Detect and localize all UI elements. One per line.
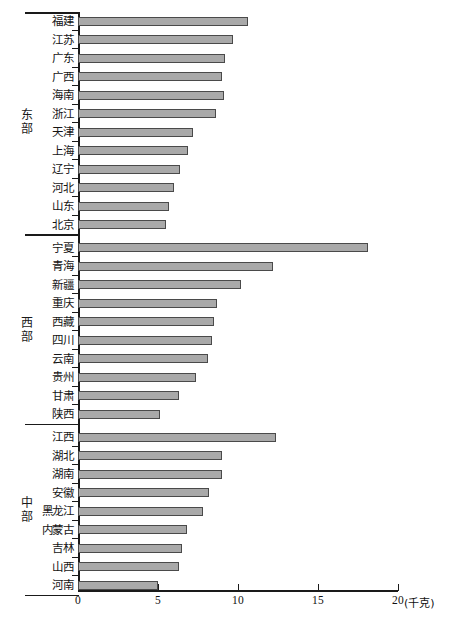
horizontal-bar-chart: 05101520 福建江苏广东广西海南浙江天津上海辽宁河北山东北京宁夏青海新疆重…	[0, 0, 464, 627]
bar-西藏	[78, 317, 214, 326]
bar-河南	[78, 581, 158, 590]
bar-row: 江苏	[0, 31, 464, 50]
bar-row: 广东	[0, 49, 464, 68]
category-label-福建: 福建	[4, 12, 74, 31]
category-label-河南: 河南	[4, 576, 74, 595]
bar-row: 河北	[0, 179, 464, 198]
bar-海南	[78, 91, 224, 100]
x-tick-label-20: 20	[392, 594, 404, 606]
bar-row: 福建	[0, 12, 464, 31]
bar-row: 陕西	[0, 405, 464, 424]
category-label-陕西: 陕西	[4, 405, 74, 424]
bar-row: 宁夏	[0, 239, 464, 258]
category-label-上海: 上海	[4, 142, 74, 161]
bar-row: 内蒙古	[0, 521, 464, 540]
bar-row: 山西	[0, 558, 464, 577]
bar-湖南	[78, 470, 222, 479]
bar-江西	[78, 433, 276, 442]
x-axis-unit-label: (千克)	[404, 594, 435, 610]
bar-row: 湖南	[0, 465, 464, 484]
category-label-江西: 江西	[4, 428, 74, 447]
category-label-湖南: 湖南	[4, 465, 74, 484]
bar-辽宁	[78, 165, 180, 174]
category-label-浙江: 浙江	[4, 105, 74, 124]
bar-北京	[78, 220, 166, 229]
bar-row: 广西	[0, 68, 464, 87]
group-label-东部: 东部	[18, 108, 36, 136]
bar-row: 新疆	[0, 276, 464, 295]
category-label-青海: 青海	[4, 257, 74, 276]
category-label-广西: 广西	[4, 68, 74, 87]
bar-广西	[78, 72, 222, 81]
bar-row: 海南	[0, 86, 464, 105]
bar-row: 安徽	[0, 484, 464, 503]
bar-row: 贵州	[0, 368, 464, 387]
group-separator-中部	[25, 595, 79, 597]
bar-row: 江西	[0, 428, 464, 447]
category-label-江苏: 江苏	[4, 31, 74, 50]
category-label-贵州: 贵州	[4, 368, 74, 387]
bar-陕西	[78, 410, 160, 419]
group-separator-top	[25, 12, 79, 14]
bar-青海	[78, 262, 273, 271]
bar-row: 四川	[0, 331, 464, 350]
bar-山西	[78, 562, 179, 571]
category-label-新疆: 新疆	[4, 276, 74, 295]
group-label-中部: 中部	[18, 496, 36, 524]
category-label-西藏: 西藏	[4, 313, 74, 332]
bar-row: 西藏	[0, 313, 464, 332]
bar-row: 上海	[0, 142, 464, 161]
category-label-内蒙古: 内蒙古	[4, 521, 74, 540]
category-label-广东: 广东	[4, 49, 74, 68]
category-label-湖北: 湖北	[4, 447, 74, 466]
bar-四川	[78, 336, 212, 345]
bar-贵州	[78, 373, 196, 382]
x-tick-label-5: 5	[155, 594, 161, 606]
group-label-西部: 西部	[18, 316, 36, 344]
category-label-云南: 云南	[4, 350, 74, 369]
bar-row: 黑龙江	[0, 502, 464, 521]
bar-山东	[78, 202, 169, 211]
group-separator-西部	[25, 424, 79, 426]
bar-row: 甘肃	[0, 387, 464, 406]
category-label-北京: 北京	[4, 216, 74, 235]
x-tick-label-15: 15	[312, 594, 324, 606]
bar-宁夏	[78, 243, 368, 252]
category-label-宁夏: 宁夏	[4, 239, 74, 258]
bar-row: 天津	[0, 123, 464, 142]
bar-row: 北京	[0, 216, 464, 235]
bar-row: 辽宁	[0, 160, 464, 179]
category-label-甘肃: 甘肃	[4, 387, 74, 406]
bar-内蒙古	[78, 525, 187, 534]
bar-安徽	[78, 488, 209, 497]
bar-天津	[78, 128, 193, 137]
group-separator-东部	[25, 234, 79, 236]
category-label-山东: 山东	[4, 197, 74, 216]
category-label-重庆: 重庆	[4, 294, 74, 313]
bar-江苏	[78, 35, 233, 44]
bar-浙江	[78, 109, 216, 118]
bar-row: 重庆	[0, 294, 464, 313]
bar-广东	[78, 54, 225, 63]
bar-row: 浙江	[0, 105, 464, 124]
category-label-安徽: 安徽	[4, 484, 74, 503]
category-label-天津: 天津	[4, 123, 74, 142]
bar-row: 吉林	[0, 539, 464, 558]
bar-新疆	[78, 280, 241, 289]
bar-上海	[78, 146, 188, 155]
bar-河北	[78, 183, 174, 192]
bar-row: 云南	[0, 350, 464, 369]
category-label-山西: 山西	[4, 558, 74, 577]
category-label-河北: 河北	[4, 179, 74, 198]
bar-吉林	[78, 544, 182, 553]
bar-row: 山东	[0, 197, 464, 216]
x-tick-label-10: 10	[232, 594, 244, 606]
category-label-海南: 海南	[4, 86, 74, 105]
category-label-吉林: 吉林	[4, 539, 74, 558]
category-label-黑龙江: 黑龙江	[4, 502, 74, 521]
bar-row: 湖北	[0, 447, 464, 466]
bar-row: 青海	[0, 257, 464, 276]
bar-甘肃	[78, 391, 179, 400]
category-label-辽宁: 辽宁	[4, 160, 74, 179]
bar-云南	[78, 354, 208, 363]
